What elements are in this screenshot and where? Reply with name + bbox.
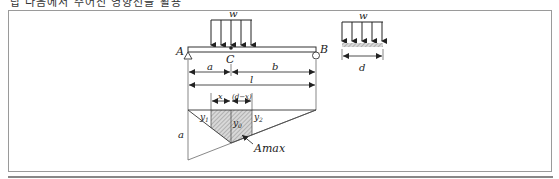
load-detail xyxy=(342,22,383,60)
load-label-w: w xyxy=(229,8,238,19)
pin-support-icon xyxy=(184,52,192,59)
dim-label-x: x xyxy=(218,92,223,101)
load-detail-label-w: w xyxy=(359,10,368,21)
dim-label-l: l xyxy=(250,74,253,85)
roller-support-icon xyxy=(313,52,320,59)
ordinate-label-y1: y1 xyxy=(199,112,209,123)
support-label-a: A xyxy=(175,45,184,58)
load-detail-label-d: d xyxy=(359,62,365,73)
dim-label-a: a xyxy=(207,61,213,72)
beam-influence-diagram: w A B C a b l w d x (d−x) xyxy=(0,0,559,179)
area-label-amax: Amax xyxy=(253,142,286,155)
dim-label-b: b xyxy=(272,61,278,72)
beam xyxy=(188,47,316,52)
point-label-c: C xyxy=(226,53,235,66)
ordinate-label-y2: y2 xyxy=(253,112,263,123)
distributed-load-w xyxy=(211,20,252,45)
dim-label-d-minus-x: (d−x) xyxy=(232,93,252,101)
ordinate-label-a: a xyxy=(178,129,184,140)
support-label-b: B xyxy=(319,43,328,56)
point-c-marker xyxy=(229,46,233,50)
